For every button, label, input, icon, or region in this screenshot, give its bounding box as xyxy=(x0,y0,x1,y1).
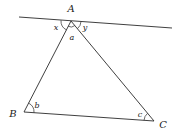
angle-label-x: x xyxy=(54,23,59,32)
angle-label-b: b xyxy=(34,101,39,110)
angle-arc-c xyxy=(144,113,148,120)
triangle-diagram: A B C x y a b c xyxy=(0,0,180,134)
side-ab xyxy=(24,21,71,112)
angle-arc-a xyxy=(68,26,75,27)
vertex-label-a: A xyxy=(66,3,74,14)
angle-arc-x xyxy=(61,20,66,30)
vertex-label-b: B xyxy=(8,108,16,119)
line-through-a xyxy=(19,17,172,28)
side-ac xyxy=(71,21,154,121)
vertex-label-c: C xyxy=(159,119,167,130)
angle-arc-y xyxy=(77,22,81,29)
angle-label-y: y xyxy=(82,23,88,32)
angle-label-c: c xyxy=(138,110,143,119)
angle-label-a: a xyxy=(70,33,75,42)
side-bc xyxy=(24,112,154,121)
angle-arc-b xyxy=(29,103,34,113)
